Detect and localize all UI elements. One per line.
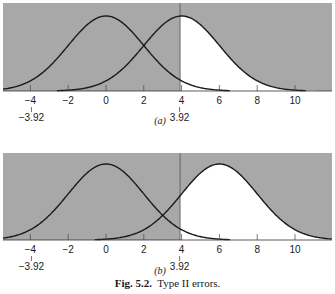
x-tick-label: 4 — [179, 244, 185, 255]
x-tick-label: 8 — [254, 244, 260, 255]
annotation-label: 3.92 — [170, 261, 190, 272]
x-tick-label: 10 — [289, 95, 301, 106]
x-tick-label: 2 — [141, 244, 147, 255]
x-tick-label: 2 — [141, 95, 147, 106]
annotation-label: −3.92 — [19, 112, 45, 123]
annotation-label: −3.92 — [19, 261, 45, 272]
x-tick-label: 4 — [179, 95, 185, 106]
figure-caption: Fig. 5.2. Type II errors. — [0, 277, 335, 289]
x-tick-label: 0 — [103, 95, 109, 106]
x-tick-label: −2 — [62, 95, 74, 106]
panel-label: (a) — [154, 115, 166, 127]
x-tick-label: 6 — [217, 244, 223, 255]
annotation-label: 3.92 — [170, 112, 190, 123]
x-tick-label: −4 — [25, 95, 37, 106]
figure-caption-text: Type II errors. — [157, 277, 220, 289]
figure: −4−20246810−3.923.92(a) −4−20246810−3.92… — [0, 0, 335, 294]
panel-b: −4−20246810−3.923.92(b) — [3, 153, 332, 277]
x-tick-label: 10 — [289, 244, 301, 255]
shaded-background — [3, 3, 332, 91]
x-tick-label: 8 — [254, 95, 260, 106]
x-tick-label: 6 — [217, 95, 223, 106]
x-tick-label: −2 — [62, 244, 74, 255]
x-tick-label: 0 — [103, 244, 109, 255]
panel-label: (b) — [154, 265, 166, 277]
figure-number: Fig. 5.2. — [115, 277, 152, 289]
x-tick-label: −4 — [25, 244, 37, 255]
panel-a: −4−20246810−3.923.92(a) — [3, 3, 332, 127]
